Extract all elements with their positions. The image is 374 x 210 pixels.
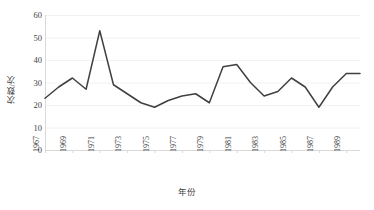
x-axis-title: 年份 <box>0 188 374 197</box>
y-tick-label: 30 <box>20 78 42 87</box>
x-tick-label: 1975 <box>143 136 151 152</box>
x-tick-label: 1981 <box>225 136 233 152</box>
y-tick-label: 10 <box>20 123 42 132</box>
y-tick-label: 50 <box>20 33 42 42</box>
gridlines <box>45 16 360 129</box>
x-axis-title-text: 年份 <box>178 187 196 197</box>
x-tick-label: 1979 <box>197 136 205 152</box>
x-tick-label: 1983 <box>252 136 260 152</box>
x-tick-label: 1985 <box>280 136 288 152</box>
x-tick-label: 1967 <box>33 136 41 152</box>
x-tick-label: 1987 <box>307 136 315 152</box>
x-axis-tick-labels: 1967196919711973197519771979198119831985… <box>45 150 360 190</box>
x-tick-label: 1971 <box>88 136 96 152</box>
x-tick-label: 1989 <box>334 136 342 152</box>
y-tick-label: 20 <box>20 101 42 110</box>
plot-svg <box>45 15 360 150</box>
x-tick-label: 1969 <box>60 136 68 152</box>
line-chart: 次数/次 0102030405060 196719691971197319751… <box>0 0 374 210</box>
y-axis-tick-labels: 0102030405060 <box>16 0 42 210</box>
axis-lines <box>45 15 360 153</box>
x-tick-label: 1977 <box>170 136 178 152</box>
plot-area <box>45 15 360 150</box>
y-tick-label: 60 <box>20 11 42 20</box>
data-series <box>45 31 360 108</box>
series-line <box>45 31 360 108</box>
x-tick-label: 1973 <box>115 136 123 152</box>
y-tick-label: 40 <box>20 56 42 65</box>
y-axis-title-text: 次数/次 <box>8 75 17 104</box>
